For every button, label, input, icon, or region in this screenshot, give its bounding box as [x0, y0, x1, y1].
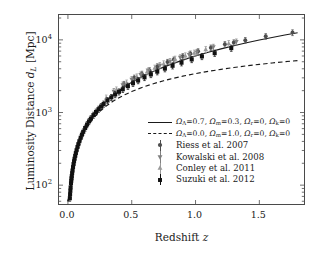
- triangle-down-marker-icon: [155, 152, 165, 162]
- solid-line-icon: [148, 122, 172, 123]
- y-tick-label: 102: [26, 178, 52, 190]
- legend-label: ΩΛ=0.0, Ωm=1.0, Ωr=0, Ωk=0: [173, 130, 290, 139]
- data-point: [171, 64, 175, 68]
- legend-item-kowalski: Kowalski et al. 2008: [147, 151, 303, 162]
- dashed-line-icon: [148, 133, 172, 134]
- data-point: [243, 38, 247, 42]
- data-point: [179, 61, 183, 65]
- data-point: [117, 90, 121, 94]
- y-axis-label-text: Luminosity Distance: [24, 78, 36, 190]
- data-point: [126, 84, 130, 88]
- x-tick-label: 1.0: [178, 209, 212, 220]
- square-marker-icon: [155, 175, 165, 185]
- y-axis-label-subscript: L: [29, 66, 38, 71]
- data-point: [291, 31, 295, 35]
- data-point: [131, 81, 135, 85]
- legend-label: Kowalski et al. 2008: [173, 153, 264, 162]
- data-point: [136, 79, 140, 83]
- legend-label: Conley et al. 2011: [173, 164, 255, 173]
- x-tick-label: 0.0: [50, 209, 84, 220]
- legend-item-suzuki: Suzuki et al. 2012: [147, 174, 303, 185]
- data-point: [163, 67, 167, 71]
- data-point: [102, 102, 106, 106]
- legend-item-dashed-line: ΩΛ=0.0, Ωm=1.0, Ωr=0, Ωk=0: [147, 128, 303, 139]
- data-point: [213, 51, 217, 55]
- legend-label: Riess et al. 2007: [173, 141, 248, 150]
- data-point: [81, 130, 85, 134]
- legend-marker-swatch-kowalski: [147, 151, 173, 162]
- legend-marker-swatch-conley: [147, 163, 173, 174]
- legend-item-solid-line: ΩΛ=0.7, Ωm=0.3, Ωr=0, Ωk=0: [147, 117, 303, 128]
- legend-item-conley: Conley et al. 2011: [147, 163, 303, 174]
- circle-marker-icon: [155, 140, 165, 150]
- data-point: [149, 72, 153, 76]
- data-point: [226, 41, 231, 45]
- triangle-up-marker-icon: [155, 163, 165, 173]
- legend-solid-line-swatch: [147, 117, 173, 128]
- data-point: [229, 46, 233, 50]
- legend-dashed-line-swatch: [147, 128, 173, 139]
- data-point: [223, 42, 227, 46]
- data-point: [190, 57, 194, 61]
- data-point: [155, 70, 159, 74]
- y-tick-label: 104: [26, 33, 52, 45]
- x-axis-label-text: Redshift: [155, 231, 203, 243]
- legend: ΩΛ=0.7, Ωm=0.3, Ωr=0, Ωk=0ΩΛ=0.0, Ωm=1.0…: [147, 117, 303, 185]
- data-point: [203, 47, 208, 51]
- y-axis-label-variable: d: [24, 71, 36, 78]
- data-point: [69, 185, 73, 189]
- y-tick-label: 103: [26, 106, 52, 118]
- legend-label: ΩΛ=0.7, Ωm=0.3, Ωr=0, Ωk=0: [173, 118, 290, 127]
- figure-canvas: Luminosity Distance dL [Mpc] Redshift z …: [0, 0, 322, 253]
- data-point: [200, 54, 204, 58]
- x-tick-label: 1.5: [241, 209, 275, 220]
- legend-item-riess: Riess et al. 2007: [147, 140, 303, 151]
- x-tick-label: 0.5: [114, 209, 148, 220]
- x-axis-label: Redshift z: [58, 231, 305, 243]
- legend-marker-swatch-riess: [147, 140, 173, 151]
- legend-marker-swatch-suzuki: [147, 174, 173, 185]
- x-axis-label-variable: z: [203, 231, 209, 243]
- plot-area: ΩΛ=0.7, Ωm=0.3, Ωr=0, Ωk=0ΩΛ=0.0, Ωm=1.0…: [58, 14, 305, 205]
- data-point: [121, 87, 125, 91]
- data-point: [109, 95, 113, 99]
- legend-label: Suzuki et al. 2012: [173, 175, 255, 184]
- data-point: [264, 34, 268, 38]
- data-point: [161, 61, 166, 65]
- data-point: [105, 98, 109, 102]
- data-point: [113, 92, 117, 96]
- data-point: [142, 75, 146, 79]
